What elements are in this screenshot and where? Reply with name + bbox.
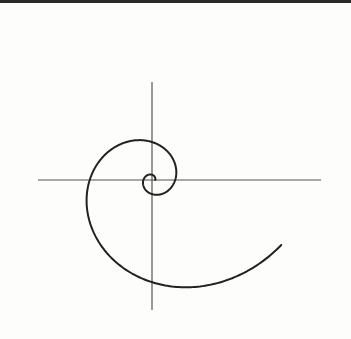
spiral-figure <box>0 0 351 339</box>
spiral-curve <box>87 140 282 287</box>
